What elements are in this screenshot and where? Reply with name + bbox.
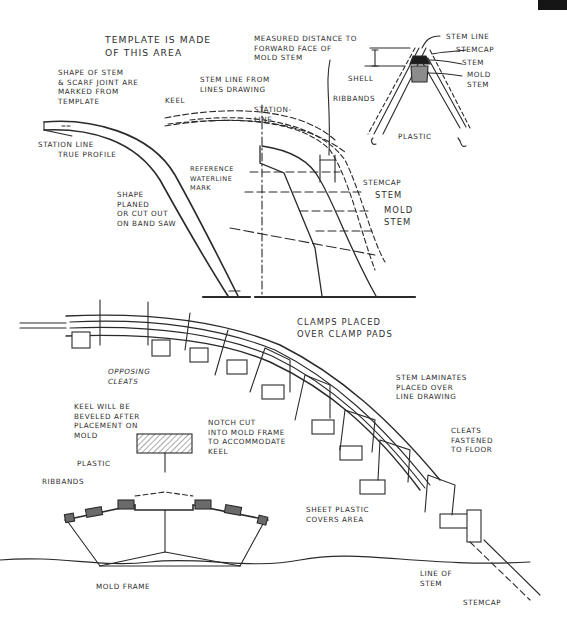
- label-cleats-fastened: CLEATS FASTENED TO FLOOR: [451, 426, 493, 455]
- label-stemcap: STEMCAP: [456, 45, 494, 55]
- label-reference-waterline: REFERENCE WATERLINE MARK: [190, 165, 234, 194]
- label-stem: STEM: [462, 58, 484, 68]
- label-plastic-bottom: PLASTIC: [77, 459, 111, 469]
- label-keel-top: KEEL: [165, 96, 185, 106]
- label-template-area: TEMPLATE IS MADE OF THIS AREA: [105, 34, 211, 59]
- stem-section: [365, 36, 470, 146]
- label-clamps-placed: CLAMPS PLACED OVER CLAMP PADS: [297, 316, 393, 340]
- label-true-profile: TRUE PROFILE: [58, 150, 116, 160]
- label-shape-marked: SHAPE OF STEM & SCARF JOINT ARE MARKED F…: [58, 68, 138, 106]
- label-shape-planed: SHAPE PLANED OR CUT OUT ON BAND SAW: [117, 190, 176, 228]
- clamps: [100, 300, 455, 515]
- label-plastic-top: PLASTIC: [398, 132, 432, 142]
- label-measured-distance: MEASURED DISTANCE TO FORWARD FACE OF MOL…: [254, 34, 357, 63]
- label-station-line-mid: STATION- LINE: [254, 105, 292, 124]
- label-opposing-cleats: OPPOSING CLEATS: [108, 367, 150, 386]
- label-ribbands-top: RIBBANDS: [333, 94, 375, 104]
- label-line-of-stem: LINE OF STEM: [420, 569, 452, 588]
- label-shell: SHELL: [348, 74, 374, 84]
- label-stem-mid: STEM: [375, 189, 402, 201]
- label-station-line: STATION LINE: [38, 140, 94, 150]
- label-stem-line: STEM LINE: [446, 32, 489, 42]
- label-stemcap-mid: STEMCAP: [363, 178, 401, 188]
- label-stem-laminates: STEM LAMINATES PLACED OVER LINE DRAWING: [396, 373, 467, 402]
- label-stem-line-from: STEM LINE FROM LINES DRAWING: [200, 75, 270, 94]
- label-mold-stem: MOLD STEM: [467, 70, 491, 89]
- label-mold-frame: MOLD FRAME: [96, 582, 150, 592]
- label-ribbands-bottom: RIBBANDS: [42, 477, 84, 487]
- label-stemcap-bottom: STEMCAP: [463, 598, 501, 608]
- label-sheet-plastic: SHEET PLASTIC COVERS AREA: [306, 505, 369, 524]
- label-keel-beveled: KEEL WILL BE BEVELED AFTER PLACEMENT ON …: [74, 402, 140, 440]
- label-mold-stem-mid: MOLD STEM: [384, 204, 413, 228]
- label-notch-cut: NOTCH CUT INTO MOLD FRAME TO ACCOMMODATE…: [208, 418, 286, 456]
